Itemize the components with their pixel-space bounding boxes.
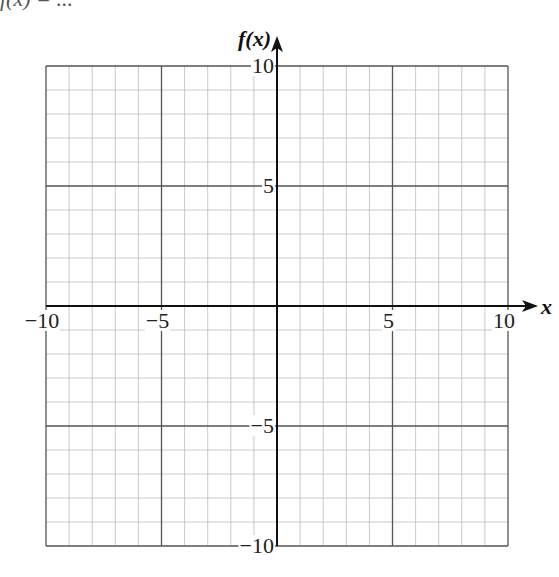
axes xyxy=(46,36,538,546)
x-axis-label: x xyxy=(540,294,552,319)
x-tick-label: 5 xyxy=(383,308,394,333)
y-axis-label: f(x) xyxy=(238,26,271,51)
coordinate-grid: −10−5510105−5−10 x f(x) xyxy=(0,0,559,577)
x-tick-label: −10 xyxy=(25,308,59,333)
y-tick-label: 5 xyxy=(263,173,274,198)
y-tick-label: 10 xyxy=(252,53,274,78)
y-tick-label: −10 xyxy=(240,533,274,558)
x-tick-label: −5 xyxy=(146,308,169,333)
y-tick-label: −5 xyxy=(251,413,274,438)
x-tick-label: 10 xyxy=(493,308,515,333)
